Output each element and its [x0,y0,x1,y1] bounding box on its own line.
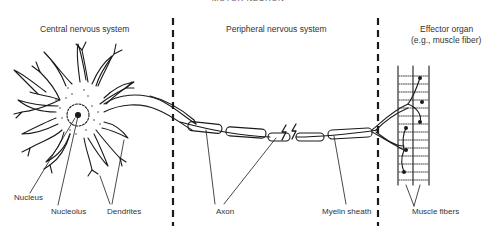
leader-lines [30,116,420,206]
muscle-fibers-shape [398,66,429,185]
axon-hillock [104,95,196,124]
axon-break [282,124,296,140]
label-axon: Axon [216,207,234,217]
myelin-sheath-segments [188,121,373,141]
label-nucleus: Nucleus [14,193,43,203]
label-muscle-fibers: Muscle fibers [412,207,459,217]
label-myelin-sheath: Myelin sheath [322,207,371,217]
motor-neuron-illustration [0,0,496,230]
cell-body [14,42,134,176]
label-nucleolus: Nucleolus [51,207,86,217]
label-dendrites: Dendrites [107,207,141,217]
